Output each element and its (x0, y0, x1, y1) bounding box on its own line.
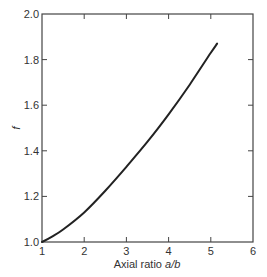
x-tick-label: 2 (81, 245, 87, 257)
y-tick-label: 1.4 (24, 145, 39, 157)
x-tick-label: 6 (250, 245, 256, 257)
series-line-f (42, 44, 217, 242)
x-tick-label: 1 (39, 245, 45, 257)
x-tick-label: 4 (166, 245, 172, 257)
x-tick-label: 3 (123, 245, 129, 257)
y-axis-title: f (10, 126, 22, 130)
x-tick-label: 5 (208, 245, 214, 257)
axis-ticks (42, 14, 253, 242)
plot-frame (42, 14, 253, 242)
x-axis-title-italic: a/b (165, 258, 180, 270)
chart: 1.01.21.41.61.82.0 123456 Axial ratio a/… (0, 0, 267, 277)
plot-border (42, 14, 253, 242)
y-tick-labels: 1.01.21.41.61.82.0 (24, 8, 39, 248)
y-tick-label: 1.2 (24, 190, 39, 202)
x-axis-title-text: Axial ratio (114, 258, 165, 270)
x-axis-title: Axial ratio a/b (114, 258, 181, 270)
y-tick-label: 1.6 (24, 99, 39, 111)
y-tick-label: 1.8 (24, 54, 39, 66)
y-tick-label: 2.0 (24, 8, 39, 20)
y-tick-label: 1.0 (24, 236, 39, 248)
x-tick-labels: 123456 (39, 245, 256, 257)
data-series (42, 44, 217, 242)
